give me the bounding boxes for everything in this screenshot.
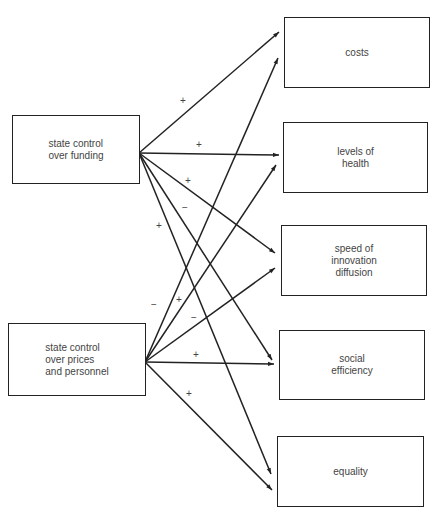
target-label-costs: costs: [345, 47, 368, 59]
sign-funding-efficiency: −: [182, 203, 188, 213]
target-label-equality: equality: [333, 466, 367, 478]
source-label-prices: state control over prices and personnel: [45, 342, 108, 378]
target-label-efficiency: social efficiency: [331, 353, 373, 377]
arrow-prices-efficiency: [145, 362, 274, 364]
target-label-innovation: speed of innovation diffusion: [331, 243, 377, 279]
arrow-prices-equality: [145, 362, 272, 490]
sign-funding-innovation: +: [185, 176, 191, 186]
target-label-health: levels of health: [337, 146, 374, 170]
sign-prices-costs: −: [151, 300, 157, 310]
target-box-efficiency: social efficiency: [279, 330, 425, 400]
sign-prices-innovation: −: [191, 313, 197, 323]
arrow-prices-innovation: [145, 268, 275, 362]
sign-prices-equality: +: [186, 389, 192, 399]
source-label-funding: state control over funding: [48, 138, 103, 162]
sign-prices-health: +: [176, 295, 182, 305]
source-box-funding: state control over funding: [12, 115, 140, 184]
source-box-prices: state control over prices and personnel: [8, 323, 146, 396]
arrow-prices-health: [145, 165, 276, 362]
sign-funding-equality: +: [156, 221, 162, 231]
arrow-prices-costs: [145, 58, 278, 362]
arrow-funding-health: [139, 153, 279, 155]
arrow-funding-costs: [139, 32, 279, 153]
sign-prices-efficiency: +: [193, 350, 199, 360]
target-box-costs: costs: [284, 17, 430, 88]
target-box-innovation: speed of innovation diffusion: [281, 225, 427, 296]
sign-funding-health: +: [196, 140, 202, 150]
target-box-equality: equality: [277, 436, 424, 507]
sign-funding-costs: +: [180, 96, 186, 106]
target-box-health: levels of health: [283, 122, 428, 193]
